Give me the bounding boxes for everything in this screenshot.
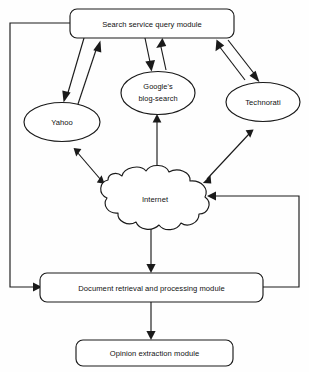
diagram-canvas: Search service query module Yahoo Google… xyxy=(0,0,309,372)
yahoo-label: Yahoo xyxy=(51,118,73,127)
search-service-query-module-label: Search service query module xyxy=(102,20,202,29)
edge-query-to-google xyxy=(145,38,155,72)
node-internet[interactable]: Internet xyxy=(101,165,209,229)
edge-yahoo-internet xyxy=(74,148,105,184)
node-yahoo[interactable]: Yahoo xyxy=(24,103,100,142)
node-google-blog-search[interactable]: Google's blog-search xyxy=(121,72,195,115)
edge-query-to-document-left-feedback xyxy=(10,23,70,292)
edge-technorati-internet xyxy=(203,130,254,184)
edge-internet-to-document xyxy=(146,226,155,273)
edge-query-to-technorati xyxy=(228,40,260,82)
google-blog-search-ellipse[interactable] xyxy=(121,72,195,115)
node-opinion-extraction-module[interactable]: Opinion extraction module xyxy=(76,340,233,366)
node-document-retrieval-and-processing-module[interactable]: Document retrieval and processing module xyxy=(40,273,263,302)
google-blog-search-label-line1: Google's xyxy=(143,82,173,91)
opinion-extraction-label: Opinion extraction module xyxy=(110,349,199,358)
edge-yahoo-to-query xyxy=(78,41,101,104)
internet-label: Internet xyxy=(142,195,169,204)
edge-query-to-yahoo xyxy=(62,38,84,102)
technorati-label: Technorati xyxy=(245,98,281,107)
architecture-diagram: Search service query module Yahoo Google… xyxy=(0,0,309,372)
node-search-service-query-module[interactable]: Search service query module xyxy=(70,9,234,38)
node-technorati[interactable]: Technorati xyxy=(226,83,300,122)
edge-document-to-opinion xyxy=(146,302,155,340)
document-retrieval-label: Document retrieval and processing module xyxy=(78,284,224,293)
google-blog-search-label-line2: blog-search xyxy=(138,94,177,103)
edge-technorati-to-query xyxy=(216,39,246,80)
edge-google-to-query xyxy=(156,38,166,70)
